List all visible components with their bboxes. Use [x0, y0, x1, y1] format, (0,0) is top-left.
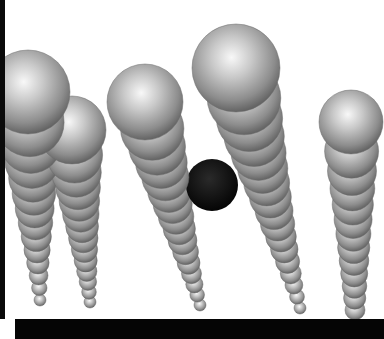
frame-bottom-bar: [15, 319, 384, 339]
sphere-render-image: [0, 0, 384, 339]
grey-sphere: [319, 90, 383, 154]
sphere-rows-illustration: [0, 0, 384, 339]
frame-corner: [0, 319, 15, 339]
frame-left-bar: [0, 0, 5, 339]
black-sphere: [186, 159, 238, 211]
grey-sphere: [107, 64, 183, 140]
grey-sphere: [192, 24, 280, 112]
sphere-rows: [0, 24, 383, 320]
